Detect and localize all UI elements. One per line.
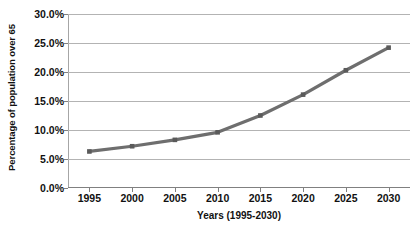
data-series bbox=[68, 14, 410, 188]
data-point-marker bbox=[215, 130, 220, 135]
data-point-marker bbox=[386, 45, 391, 50]
chart-title-clipped bbox=[18, 0, 408, 1]
y-tick-label: 15.0% bbox=[16, 95, 64, 107]
series-line bbox=[89, 48, 388, 152]
y-axis-tick-labels: 0.0%5.0%10.0%15.0%20.0%25.0%30.0% bbox=[16, 0, 64, 243]
data-point-marker bbox=[258, 113, 263, 118]
data-point-marker bbox=[301, 92, 306, 97]
y-tick-mark bbox=[64, 188, 68, 189]
y-tick-label: 30.0% bbox=[16, 8, 64, 20]
y-tick-label: 0.0% bbox=[16, 182, 64, 194]
x-axis-title: Years (1995-2030) bbox=[68, 210, 410, 221]
data-point-marker bbox=[87, 149, 92, 154]
data-point-marker bbox=[344, 68, 349, 73]
x-axis-tick-labels: 19952000200520102015202020252030 bbox=[68, 192, 410, 208]
x-tick-label: 2030 bbox=[359, 192, 418, 204]
series-markers bbox=[87, 45, 391, 153]
y-axis-title: Percentage of population over 65 bbox=[6, 3, 17, 193]
line-chart: Percentage of population over 65 0.0%5.0… bbox=[0, 0, 418, 243]
y-tick-label: 5.0% bbox=[16, 153, 64, 165]
y-tick-label: 25.0% bbox=[16, 37, 64, 49]
data-point-marker bbox=[173, 138, 178, 143]
y-tick-label: 10.0% bbox=[16, 124, 64, 136]
y-tick-label: 20.0% bbox=[16, 66, 64, 78]
data-point-marker bbox=[130, 144, 135, 149]
plot-area bbox=[68, 14, 410, 188]
